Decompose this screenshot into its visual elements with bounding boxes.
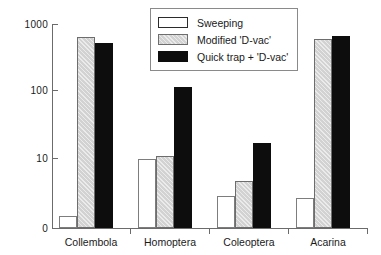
bar-collembola-quick [95, 43, 113, 228]
bar-homoptera-sweeping [138, 159, 156, 228]
bar-chart-figure: Log nos./m2 1000 100 10 0 [0, 0, 381, 255]
y-tick-label-1000: 1000 [25, 19, 48, 30]
x-tick-label-coleoptera: Coleoptera [223, 236, 274, 248]
bar-group-collembola [52, 24, 130, 228]
legend-swatch-modified-icon [158, 34, 188, 45]
legend-item-quick: Quick trap + 'D-vac' [158, 48, 291, 65]
x-axis-separator [130, 228, 131, 234]
x-tick-label-collembola: Collembola [65, 236, 118, 248]
legend-item-modified: Modified 'D-vac' [158, 31, 291, 48]
bar-homoptera-quick [174, 87, 192, 228]
legend-label-modified: Modified 'D-vac' [197, 34, 271, 46]
bar-acarina-modified [314, 39, 332, 228]
x-axis-separator [288, 228, 289, 234]
y-tick-label-10: 10 [36, 153, 48, 164]
bar-acarina-quick [332, 36, 350, 228]
legend-label-sweeping: Sweeping [197, 17, 243, 29]
y-tick-label-0: 0 [42, 223, 48, 234]
x-axis-separator [367, 228, 368, 234]
bar-coleoptera-sweeping [217, 196, 235, 228]
bar-homoptera-modified [156, 156, 174, 228]
x-tick-label-homoptera: Homoptera [144, 236, 196, 248]
chart-legend: Sweeping Modified 'D-vac' Quick trap + '… [150, 8, 298, 71]
bar-group-acarina [289, 24, 367, 228]
legend-label-quick: Quick trap + 'D-vac' [197, 51, 288, 63]
y-tick-label-100: 100 [30, 85, 48, 96]
bar-acarina-sweeping [296, 198, 314, 228]
x-axis-separator [209, 228, 210, 234]
bar-collembola-modified [77, 37, 95, 228]
bar-coleoptera-quick [253, 143, 271, 228]
bar-coleoptera-modified [235, 181, 253, 229]
legend-item-sweeping: Sweeping [158, 14, 291, 31]
legend-swatch-sweeping-icon [158, 17, 188, 28]
bar-collembola-sweeping [59, 216, 77, 228]
x-tick-label-acarina: Acarina [310, 236, 346, 248]
legend-swatch-quick-icon [158, 51, 188, 62]
x-axis-line [52, 228, 368, 229]
